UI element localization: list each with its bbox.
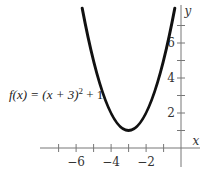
y-axis-label: y <box>184 4 192 18</box>
x-tick-label: −4 <box>102 155 120 169</box>
y-tick-label: 4 <box>167 71 175 85</box>
x-axis-label: x <box>193 134 200 148</box>
function-label-prefix: f(x) = (x + 3) <box>9 87 79 102</box>
x-tick-label: −2 <box>137 155 155 169</box>
function-label: f(x) = (x + 3)2 + 1 <box>9 86 103 103</box>
y-tick-label: 2 <box>167 106 175 120</box>
function-graph: −6 −4 −2 2 4 6 x y f(x) = (x + 3)2 + 1 <box>0 0 208 179</box>
function-label-suffix: + 1 <box>83 87 103 102</box>
parabola-curve <box>82 8 175 130</box>
x-tick-label: −6 <box>67 155 85 169</box>
